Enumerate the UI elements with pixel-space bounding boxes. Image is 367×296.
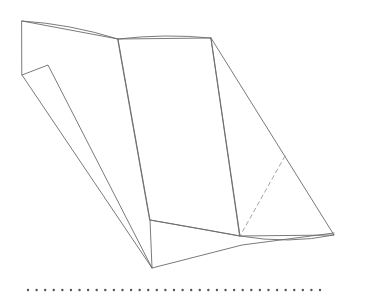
baseline-dot bbox=[53, 289, 55, 291]
baseline-dot bbox=[121, 289, 123, 291]
baseline-dot bbox=[96, 289, 98, 291]
baseline-dot bbox=[78, 289, 80, 291]
baseline-dot bbox=[310, 289, 312, 291]
baseline-dot bbox=[224, 289, 226, 291]
baseline-dot bbox=[104, 289, 106, 291]
baseline-dot bbox=[113, 289, 115, 291]
baseline-dot bbox=[216, 289, 218, 291]
baseline-dot bbox=[319, 289, 321, 291]
baseline-dot bbox=[250, 289, 252, 291]
baseline-dot bbox=[259, 289, 261, 291]
baseline-dot bbox=[87, 289, 89, 291]
folded-paper-diagram bbox=[0, 0, 367, 296]
baseline-dot bbox=[164, 289, 166, 291]
baseline-dot bbox=[302, 289, 304, 291]
baseline-dot bbox=[156, 289, 158, 291]
baseline-dot bbox=[173, 289, 175, 291]
baseline-dot bbox=[190, 289, 192, 291]
baseline-dot bbox=[138, 289, 140, 291]
baseline-dot bbox=[207, 289, 209, 291]
baseline-dot bbox=[181, 289, 183, 291]
baseline-dot bbox=[70, 289, 72, 291]
baseline-dot bbox=[233, 289, 235, 291]
baseline-dot bbox=[276, 289, 278, 291]
baseline-dot bbox=[267, 289, 269, 291]
baseline-dot bbox=[27, 289, 29, 291]
bottom-tail bbox=[152, 233, 334, 268]
figure-root bbox=[0, 0, 367, 296]
baseline-dot bbox=[44, 289, 46, 291]
dotted-baseline bbox=[27, 289, 321, 291]
baseline-dot bbox=[284, 289, 286, 291]
baseline-dot bbox=[35, 289, 37, 291]
baseline-dot bbox=[293, 289, 295, 291]
baseline-dot bbox=[61, 289, 63, 291]
baseline-dot bbox=[147, 289, 149, 291]
baseline-dot bbox=[199, 289, 201, 291]
baseline-dot bbox=[242, 289, 244, 291]
baseline-dot bbox=[130, 289, 132, 291]
